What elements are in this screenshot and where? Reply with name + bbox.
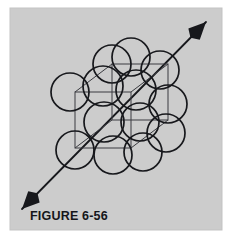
figure-illustration: FIGURE 6-56 (0, 0, 235, 243)
figure-panel (10, 8, 222, 230)
figure-caption: FIGURE 6-56 (30, 209, 108, 223)
figure-root: FIGURE 6-56 (0, 0, 235, 243)
